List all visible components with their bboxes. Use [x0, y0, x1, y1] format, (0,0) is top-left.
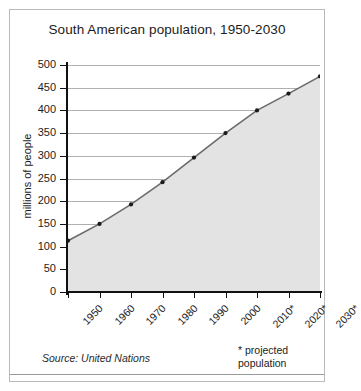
x-tick-mark	[194, 292, 195, 298]
y-tick-mark	[60, 201, 67, 202]
y-tick-mark	[60, 65, 67, 66]
y-tick-label: 100	[16, 240, 56, 252]
y-tick-label: 450	[16, 81, 56, 93]
projected-note: * projected population	[238, 344, 318, 370]
area-fill-shape	[68, 76, 320, 292]
y-tick-mark	[60, 247, 67, 248]
y-tick-mark	[60, 292, 67, 293]
y-tick-mark	[60, 88, 67, 89]
x-tick-mark	[226, 292, 227, 298]
y-tick-label: 200	[16, 194, 56, 206]
y-tick-mark	[60, 179, 67, 180]
y-tick-label: 350	[16, 126, 56, 138]
x-tick-mark	[100, 292, 101, 298]
y-tick-mark	[60, 133, 67, 134]
y-tick-mark	[60, 224, 67, 225]
x-tick-mark	[257, 292, 258, 298]
plot-area	[68, 65, 320, 292]
y-tick-label: 0	[16, 285, 56, 297]
data-point-marker	[286, 92, 290, 96]
source-note: Source: United Nations	[42, 352, 150, 364]
y-tick-mark	[60, 156, 67, 157]
projected-note-line-1: * projected	[238, 344, 318, 357]
data-point-marker	[223, 131, 227, 135]
x-tick-mark	[68, 292, 69, 298]
data-point-marker	[255, 108, 259, 112]
data-point-marker	[129, 202, 133, 206]
y-tick-label: 150	[16, 217, 56, 229]
x-tick-mark	[163, 292, 164, 298]
y-tick-label: 400	[16, 103, 56, 115]
x-tick-mark	[289, 292, 290, 298]
projected-note-line-2: population	[238, 357, 318, 370]
y-tick-mark	[60, 269, 67, 270]
y-tick-label: 250	[16, 172, 56, 184]
data-point-marker	[160, 180, 164, 184]
x-tick-label: 2030*	[333, 302, 361, 330]
x-tick-mark	[131, 292, 132, 298]
data-point-marker	[192, 156, 196, 160]
y-tick-mark	[60, 110, 67, 111]
y-tick-label: 300	[16, 149, 56, 161]
y-tick-label: 500	[16, 58, 56, 70]
area-series	[68, 65, 320, 292]
bottom-divider	[10, 374, 324, 375]
data-point-marker	[97, 222, 101, 226]
chart-title: South American population, 1950-2030	[0, 22, 334, 37]
x-tick-mark	[320, 292, 321, 298]
y-tick-label: 50	[16, 262, 56, 274]
